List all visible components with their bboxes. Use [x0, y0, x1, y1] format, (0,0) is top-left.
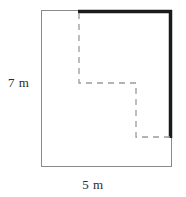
- width-dimension-label: 5 m: [0, 178, 186, 191]
- figure-canvas: [0, 0, 186, 197]
- height-dimension-label: 7 m: [8, 76, 29, 89]
- geometry-figure: 7 m 5 m: [0, 0, 186, 197]
- outer-rectangle: [42, 11, 172, 167]
